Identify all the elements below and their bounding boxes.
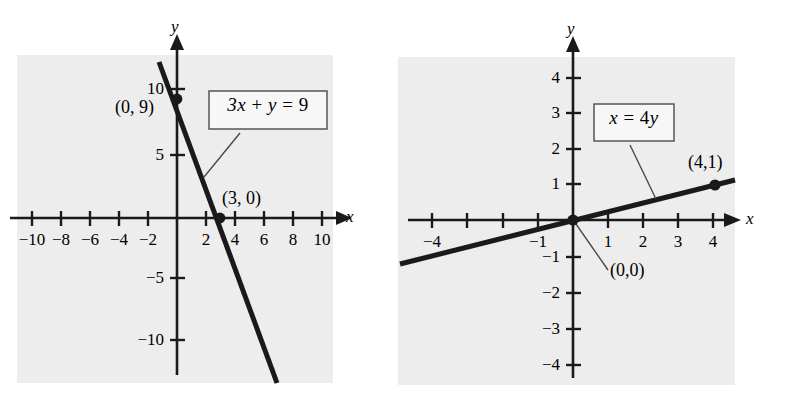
left-x-tick-label-neg6: −6	[74, 230, 106, 250]
left-y-tick-label-5: 5	[134, 145, 164, 165]
left-point-label-0-9: (0, 9)	[115, 97, 154, 118]
left-y-tick-label-neg10: −10	[126, 330, 164, 350]
left-y-tick-label-10: 10	[134, 79, 164, 99]
left-x-tick-label-4: 4	[223, 230, 247, 250]
right-y-tick-label-1: 1	[530, 174, 560, 194]
left-equation-rhs: 9	[299, 94, 309, 115]
left-point-label-3-0: (3, 0)	[222, 188, 261, 209]
right-y-tick-label-neg3: −3	[524, 319, 560, 339]
right-equation-coefficient: 4	[640, 107, 650, 128]
left-x-tick-label-8: 8	[281, 230, 305, 250]
left-point-0-9	[172, 94, 183, 105]
left-graph-panel: y x 10 5 −5 −10 −10 −8 −6 −4 −2 2 4 6 8 …	[0, 0, 394, 409]
right-y-tick-label-neg2: −2	[524, 283, 560, 303]
left-x-axis-label: x	[346, 207, 354, 227]
right-y-tick-label-neg4: −4	[524, 355, 560, 375]
right-graph-canvas	[394, 0, 788, 409]
right-x-axis-label: x	[746, 209, 754, 229]
right-x-tick-label-4: 4	[701, 232, 725, 252]
left-equation-coefficient: 3	[227, 94, 237, 115]
left-point-3-0	[215, 213, 226, 224]
left-equation-equals: =	[282, 94, 293, 115]
linear-graphs-figure: y x 10 5 −5 −10 −10 −8 −6 −4 −2 2 4 6 8 …	[0, 0, 788, 409]
left-equation-plus: +	[252, 94, 263, 115]
right-x-tick-label-2: 2	[631, 232, 655, 252]
right-point-label-0-0: (0,0)	[610, 260, 645, 281]
right-y-tick-label-3: 3	[530, 103, 560, 123]
left-x-tick-label-neg4: −4	[103, 230, 135, 250]
left-x-tick-label-neg2: −2	[132, 230, 164, 250]
left-x-tick-label-6: 6	[252, 230, 276, 250]
right-point-4-1	[709, 179, 720, 190]
right-x-tick-label-neg4: −4	[416, 232, 448, 252]
left-x-tick-label-10: 10	[308, 230, 336, 250]
left-y-axis-label: y	[171, 17, 179, 37]
right-point-0-0	[567, 214, 578, 225]
right-point-label-4-1: (4,1)	[688, 152, 723, 173]
right-x-tick-label-neg1: −1	[522, 232, 554, 252]
right-equation-var-y: y	[650, 107, 659, 128]
right-x-tick-label-1: 1	[596, 232, 620, 252]
right-y-tick-label-4: 4	[530, 68, 560, 88]
left-x-tick-label-2: 2	[194, 230, 218, 250]
left-graph-canvas	[0, 0, 394, 409]
right-graph-panel: y x 4 3 2 1 −1 −2 −3 −4 −4 −1 1 2 3 4 (0…	[394, 0, 788, 409]
right-equation-var-x: x	[609, 107, 618, 128]
left-x-tick-label-neg8: −8	[45, 230, 77, 250]
right-equation-label: x = 4y	[594, 107, 674, 129]
right-y-tick-label-2: 2	[530, 139, 560, 159]
left-equation-var-x: x	[237, 94, 246, 115]
left-equation-label: 3x + y = 9	[209, 94, 327, 116]
left-equation-var-y: y	[268, 94, 277, 115]
right-equation-equals: =	[623, 107, 634, 128]
right-y-axis-label: y	[567, 19, 575, 39]
left-y-tick-label-neg5: −5	[130, 268, 164, 288]
right-x-tick-label-3: 3	[666, 232, 690, 252]
